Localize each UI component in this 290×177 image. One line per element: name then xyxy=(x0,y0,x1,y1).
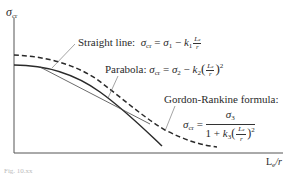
open-paren: ( xyxy=(201,61,205,76)
frac-num-sub: e xyxy=(211,64,213,69)
x-axis-tail: /r xyxy=(275,156,282,167)
open-paren: ( xyxy=(231,126,235,140)
caption-text: Fig. 10.xx xyxy=(4,167,33,175)
straight-line-label: Straight line: σcr = σ1 − k1Ler xyxy=(78,36,202,51)
k1-sub: 1 xyxy=(189,42,193,50)
column-formula-figure: σcr Le/r Straight line: σcr = σ1 − k1Ler… xyxy=(0,0,290,177)
power: 2 xyxy=(220,62,224,70)
gordon-rankine-name: Gordon-Rankine formula: xyxy=(164,93,279,105)
sigma2-sub: 2 xyxy=(177,69,181,77)
one-plus: 1 + xyxy=(206,127,220,139)
equals: = xyxy=(163,63,169,75)
gordon-rankine-leader xyxy=(165,106,175,131)
y-axis-label: σcr xyxy=(6,6,17,20)
straight-line-name: Straight line: xyxy=(78,36,135,48)
frac-den: r xyxy=(206,71,214,78)
x-axis-label: Le/r xyxy=(266,157,282,169)
frac-den: r xyxy=(193,44,201,51)
frac-den: r xyxy=(236,135,246,143)
le-over-r-fraction: Ler xyxy=(193,36,201,51)
sigma3-sub: 3 xyxy=(231,114,235,122)
straight-line-leader xyxy=(52,44,75,68)
plot-canvas xyxy=(0,0,290,177)
le-over-r-fraction: Ler xyxy=(236,126,246,143)
lhs-sub: cr xyxy=(146,42,151,50)
gordon-rankine-label: Gordon-Rankine formula: xyxy=(164,94,279,105)
power: 2 xyxy=(251,126,255,134)
rankine-fraction: σ3 1 + k3(Ler)2 xyxy=(206,108,255,143)
sigma1-sub: 1 xyxy=(169,42,173,50)
frac-num-sub: e xyxy=(198,37,200,42)
parabola-name: Parabola: xyxy=(105,63,147,75)
gordon-rankine-formula: σcr = σ3 1 + k3(Ler)2 xyxy=(183,108,255,143)
y-axis-subscript: cr xyxy=(12,12,17,20)
minus: − xyxy=(184,63,190,75)
figure-caption: Fig. 10.xx xyxy=(4,168,33,175)
le-over-r-fraction: Ler xyxy=(206,63,214,78)
minus: − xyxy=(175,36,181,48)
parabola-label: Parabola: σcr = σ2 − k2(Ler)2 xyxy=(105,62,223,78)
frac-num-sub: e xyxy=(242,127,244,132)
equals: = xyxy=(197,118,203,130)
lhs-sub: cr xyxy=(155,69,160,77)
equals: = xyxy=(154,36,160,48)
lhs-sub: cr xyxy=(188,124,193,132)
